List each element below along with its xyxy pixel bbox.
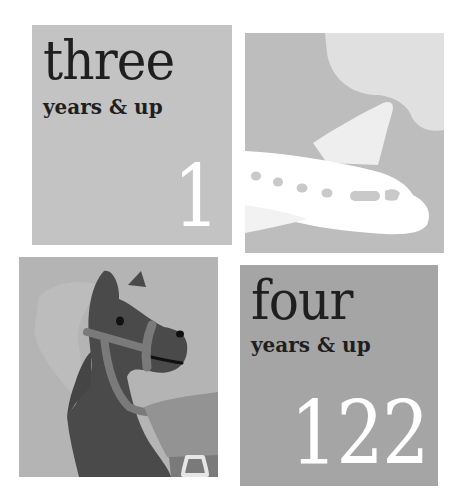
horse-tile[interactable] (19, 257, 218, 477)
page-number: 122 (290, 390, 428, 478)
page-number: 1 (173, 153, 220, 239)
horse-ear-tuft (128, 271, 146, 287)
age-subtitle: years & up (43, 97, 163, 117)
plane-window (322, 189, 333, 198)
saddle (144, 392, 218, 461)
airplane-tile[interactable] (245, 33, 444, 253)
horse-eye (116, 317, 124, 326)
age-tile-three[interactable]: three years & up 1 (32, 25, 232, 245)
airplane-icon (245, 33, 444, 253)
plane-window (297, 184, 308, 193)
age-subtitle: years & up (251, 335, 371, 355)
plane-window (251, 172, 261, 181)
horse-icon (19, 257, 218, 477)
plane-window (273, 178, 283, 187)
plane-door (350, 191, 380, 201)
age-heading: three (43, 34, 174, 88)
horse-nostril (176, 331, 184, 338)
age-tile-four[interactable]: four years & up 122 (240, 265, 438, 486)
age-heading: four (251, 274, 352, 328)
plane-tail-fin (313, 102, 393, 165)
